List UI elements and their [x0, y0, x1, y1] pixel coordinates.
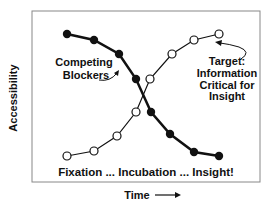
data-point: [147, 108, 155, 116]
chart: Accessibility Time Competing Blockers: [0, 0, 273, 209]
data-point: [215, 152, 223, 160]
data-point: [63, 30, 71, 38]
data-point: [63, 152, 71, 160]
data-point: [215, 30, 223, 38]
time-arrow-icon: [155, 192, 181, 198]
annotation-target-line1: Target:: [209, 55, 245, 67]
annotation-target-line4: Insight: [209, 90, 245, 102]
y-axis-label: Accessibility: [7, 63, 19, 131]
data-point: [190, 36, 198, 44]
data-point: [146, 75, 154, 83]
annotation-blockers-line1: Competing: [55, 56, 112, 68]
x-axis-label: Time: [124, 189, 149, 201]
data-point: [166, 130, 174, 138]
data-point: [132, 108, 140, 116]
data-point: [132, 75, 140, 83]
data-point: [190, 148, 198, 156]
phases-caption: Fixation ... Incubation ... Insight!: [58, 166, 234, 178]
annotation-target-line2: Information: [197, 67, 258, 79]
data-point: [113, 132, 121, 140]
data-point: [90, 147, 98, 155]
data-point: [168, 50, 176, 58]
data-point: [115, 50, 123, 58]
data-point: [90, 36, 98, 44]
annotation-blockers-line2: Blockers: [63, 69, 109, 81]
